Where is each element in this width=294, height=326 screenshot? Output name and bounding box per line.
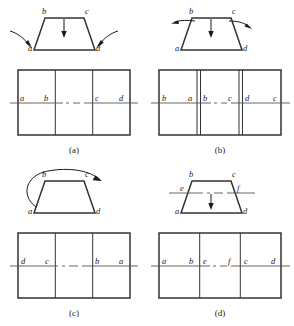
- cell-label-d2-d: b: [189, 256, 193, 266]
- vertex-label-c-b: c: [232, 6, 236, 16]
- cell-label-c2-c: c: [45, 256, 49, 266]
- cell-label-b5-b: d: [245, 93, 250, 103]
- cell-label-d1-d: a: [162, 256, 166, 266]
- panel-b: b c a d: [147, 0, 294, 163]
- vertex-label-d-b: d: [243, 43, 248, 53]
- cell-label-a3-a: c: [95, 93, 99, 103]
- vertex-label-b-c: b: [42, 169, 46, 179]
- caption-c: (c): [69, 308, 79, 318]
- cell-label-d5-d: c: [244, 256, 248, 266]
- vertex-label-a-c: a: [28, 206, 32, 216]
- caption-a: (a): [69, 145, 79, 155]
- cell-label-d6-d: d: [271, 256, 276, 266]
- vertex-label-d-d: d: [243, 206, 248, 216]
- vertex-label-c-a: c: [85, 6, 89, 16]
- down-arrow-center-d: [208, 194, 213, 210]
- vertex-label-b-a: b: [42, 6, 46, 16]
- cell-label-c3-c: b: [95, 256, 99, 266]
- down-arrow-top-a: [61, 19, 66, 38]
- curved-arrow-bottom-right-a: [96, 31, 118, 49]
- down-arrow-top-b: [208, 19, 213, 38]
- trapezoid-c: [34, 181, 95, 213]
- grid-outline-d: [159, 233, 281, 298]
- cell-label-d3-d: e: [203, 256, 207, 266]
- section-label-e-d: e: [180, 183, 184, 193]
- cell-label-b6-b: c: [273, 93, 277, 103]
- cell-label-c1-c: d: [21, 256, 26, 266]
- cell-label-a4-a: d: [119, 93, 124, 103]
- cell-label-c4-c: a: [119, 256, 123, 266]
- cell-label-b4-b: c: [228, 93, 232, 103]
- panel-a: b c a d: [0, 0, 147, 163]
- grid-outline-a: [18, 70, 130, 135]
- vertex-label-c-c: c: [85, 169, 89, 179]
- cell-label-d4-d: f: [228, 256, 232, 266]
- panel-d: b c a d e f: [147, 163, 294, 326]
- section-label-f-d: f: [237, 183, 241, 193]
- cell-label-a1-a: a: [20, 93, 24, 103]
- vertex-label-d-c: d: [96, 206, 101, 216]
- vertex-label-b-d: b: [189, 169, 193, 179]
- cell-label-a2-a: b: [44, 93, 48, 103]
- vertex-label-a-d: a: [175, 206, 179, 216]
- panel-c: b c a d d c b a (c): [0, 163, 147, 326]
- grid-outline-c: [18, 233, 130, 298]
- cell-label-b3-b: b: [203, 93, 207, 103]
- caption-b: (b): [215, 145, 226, 155]
- cell-label-b1-b: b: [162, 93, 166, 103]
- curved-arrow-top-left-b: [171, 20, 195, 24]
- cell-label-b2-b: a: [188, 93, 192, 103]
- vertex-label-c-d: c: [232, 169, 236, 179]
- grid-outline-b: [159, 70, 281, 135]
- vertex-label-a-b: a: [175, 43, 179, 53]
- vertex-label-b-b: b: [189, 6, 193, 16]
- figure-container: b c a d: [0, 0, 294, 326]
- caption-d: (d): [215, 308, 226, 318]
